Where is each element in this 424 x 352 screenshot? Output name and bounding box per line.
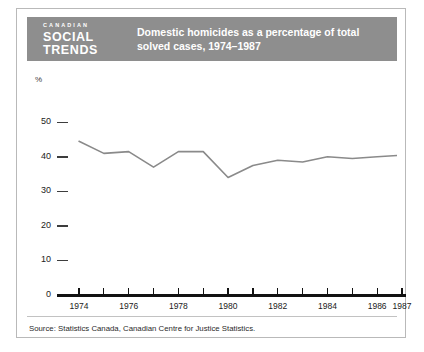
data-series-line xyxy=(27,67,397,315)
x-axis-tick xyxy=(401,288,402,294)
figure-panel: CANADIAN SOCIAL TRENDS Domestic homicide… xyxy=(16,8,406,338)
plot-area: % 01020304050 19741976197819801982198419… xyxy=(27,67,397,315)
brand-line-trends: TRENDS xyxy=(43,44,121,57)
source-note: Source: Statistics Canada, Canadian Cent… xyxy=(29,324,255,333)
chart-header-bar: CANADIAN SOCIAL TRENDS Domestic homicide… xyxy=(27,17,397,61)
chart-title: Domestic homicides as a percentage of to… xyxy=(137,25,387,53)
brand-line-canadian: CANADIAN xyxy=(43,23,121,29)
brand-line-social: SOCIAL xyxy=(43,31,121,44)
footer-divider xyxy=(27,316,397,317)
canadian-social-trends-logo: CANADIAN SOCIAL TRENDS xyxy=(43,23,121,57)
